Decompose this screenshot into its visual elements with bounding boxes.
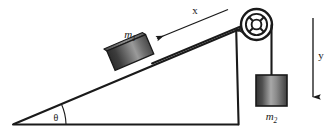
pulley-wheel	[241, 9, 272, 40]
incline-vertical-edge	[236, 30, 238, 125]
angle-theta-label: θ	[54, 112, 59, 123]
pulley-hub	[252, 20, 262, 30]
block-m1-label-subscript: 1	[132, 34, 136, 43]
block-m2-label-subscript: 2	[274, 116, 278, 125]
block-m2-label: m2	[266, 110, 278, 125]
physics-diagram-figure: θ m1 x	[0, 0, 336, 138]
rope-incline-segment	[152, 26, 243, 64]
block-m2-body	[256, 75, 287, 106]
y-axis-label: y	[318, 49, 324, 61]
block-m2	[256, 75, 287, 106]
block-m2-label-symbol: m	[266, 110, 274, 122]
angle-arc	[62, 105, 66, 125]
x-axis-label: x	[192, 4, 198, 16]
block-m1-label-symbol: m	[124, 28, 132, 40]
diagram-canvas: θ m1 x	[0, 0, 336, 138]
